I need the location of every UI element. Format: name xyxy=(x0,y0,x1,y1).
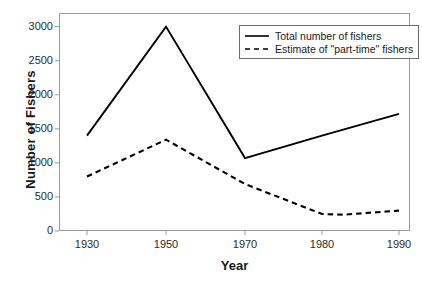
legend-label-total: Total number of fishers xyxy=(275,30,381,42)
legend-label-parttime: Estimate of "part-time" fishers xyxy=(275,43,413,55)
legend-item-total: Total number of fishers xyxy=(244,29,413,42)
legend-item-parttime: Estimate of "part-time" fishers xyxy=(244,42,413,55)
legend-swatch-dashed-icon xyxy=(244,43,270,55)
series-line-parttime xyxy=(87,140,399,215)
legend-swatch-solid-icon xyxy=(244,30,270,42)
legend: Total number of fishers Estimate of "par… xyxy=(239,25,419,59)
chart-figure: 050010001500200025003000 193019501970198… xyxy=(0,0,422,282)
